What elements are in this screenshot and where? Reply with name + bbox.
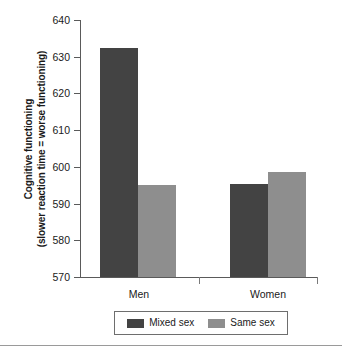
y-tick-label: 610 <box>36 122 70 138</box>
y-tick-mark <box>74 240 80 241</box>
x-axis-category-divider <box>199 277 200 284</box>
y-axis-line <box>80 20 81 278</box>
plot-area: 640 630 620 610 600 590 580 570 <box>80 20 318 277</box>
x-axis-end-tick <box>317 277 318 284</box>
legend-item-mixed-sex[interactable]: Mixed sex <box>127 317 194 329</box>
chart-legend: Mixed sex Same sex <box>114 311 288 335</box>
bar-men-mixed-sex[interactable] <box>100 48 138 277</box>
y-tick-label: 580 <box>36 232 70 248</box>
x-axis-label-men: Men <box>109 288 169 300</box>
y-tick-mark <box>74 57 80 58</box>
legend-item-same-sex[interactable]: Same sex <box>208 317 274 329</box>
legend-label: Mixed sex <box>149 317 194 329</box>
y-axis-title-main: Cognitive functioning <box>22 99 35 200</box>
y-tick-mark <box>74 130 80 131</box>
y-axis-title-sub: (slower reaction time = worse functionin… <box>35 51 48 248</box>
y-tick-label: 630 <box>36 49 70 65</box>
y-tick-label: 600 <box>36 159 70 175</box>
y-tick-label: 640 <box>36 12 70 28</box>
bar-chart-figure: Cognitive functioning (slower reaction t… <box>0 0 342 355</box>
y-tick-mark <box>74 277 80 278</box>
y-tick-mark <box>74 93 80 94</box>
legend-label: Same sex <box>230 317 274 329</box>
legend-swatch-icon <box>208 319 225 328</box>
bar-men-same-sex[interactable] <box>138 185 176 277</box>
y-tick-mark <box>74 167 80 168</box>
bar-women-same-sex[interactable] <box>268 172 306 277</box>
y-tick-label: 620 <box>36 85 70 101</box>
legend-swatch-icon <box>127 319 144 328</box>
x-axis-label-women: Women <box>238 288 298 300</box>
y-tick-mark <box>74 20 80 21</box>
y-tick-label: 570 <box>36 269 70 285</box>
y-tick-mark <box>74 204 80 205</box>
bar-women-mixed-sex[interactable] <box>230 184 268 277</box>
bottom-divider-rule <box>0 345 342 346</box>
y-tick-label: 590 <box>36 196 70 212</box>
